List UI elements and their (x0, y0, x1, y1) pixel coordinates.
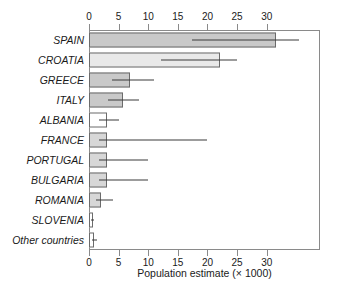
x-tick-mark (267, 250, 268, 256)
category-label: ALBANIA (40, 114, 84, 126)
error-bar (92, 240, 97, 241)
x-tick-mark (119, 250, 120, 256)
x-tick-label: 10 (143, 11, 154, 22)
error-bar (108, 100, 140, 101)
x-tick-mark (148, 250, 149, 256)
bar-row: ITALY (0, 90, 337, 110)
bar-row: FRANCE (0, 130, 337, 150)
category-label: Other countries (12, 234, 84, 246)
x-tick-mark (237, 250, 238, 256)
x-tick-label: 15 (172, 11, 183, 22)
category-label: BULGARIA (31, 174, 84, 186)
x-tick-mark (89, 250, 90, 256)
error-bar (99, 140, 208, 141)
x-tick-mark (178, 250, 179, 256)
bar-row: CROATIA (0, 50, 337, 70)
category-label: SLOVENIA (31, 214, 84, 226)
error-bar (99, 120, 119, 121)
category-label: GREECE (40, 74, 84, 86)
x-tick-label: 5 (116, 11, 122, 22)
bar-row: GREECE (0, 70, 337, 90)
x-axis-title: Population estimate (× 1000) (89, 267, 320, 279)
error-bar (99, 160, 148, 161)
bar-row: SLOVENIA (0, 210, 337, 230)
category-label: ITALY (57, 94, 84, 106)
x-tick-label: 0 (86, 11, 92, 22)
error-bar (96, 200, 113, 201)
x-tick-label: 20 (202, 11, 213, 22)
bar-row: BULGARIA (0, 170, 337, 190)
error-bar (161, 60, 237, 61)
bar-row: ROMANIA (0, 190, 337, 210)
category-label: PORTUGAL (26, 154, 84, 166)
error-bar (192, 40, 300, 41)
category-label: ROMANIA (35, 194, 84, 206)
bar-row: SPAIN (0, 30, 337, 50)
error-bar (112, 80, 154, 81)
category-label: FRANCE (41, 134, 84, 146)
x-tick-label: 25 (232, 11, 243, 22)
category-label: SPAIN (53, 34, 84, 46)
bar-row: ALBANIA (0, 110, 337, 130)
bar-chart: 051015202530 051015202530 SPAINCROATIAGR… (0, 0, 337, 290)
bar-row: Other countries (0, 230, 337, 250)
error-bar (99, 180, 148, 181)
category-label: CROATIA (38, 54, 84, 66)
x-tick-mark (207, 250, 208, 256)
x-axis-bottom: 051015202530 (89, 250, 320, 256)
bar-row: PORTUGAL (0, 150, 337, 170)
x-tick-label: 30 (261, 11, 272, 22)
error-bar (91, 220, 94, 221)
